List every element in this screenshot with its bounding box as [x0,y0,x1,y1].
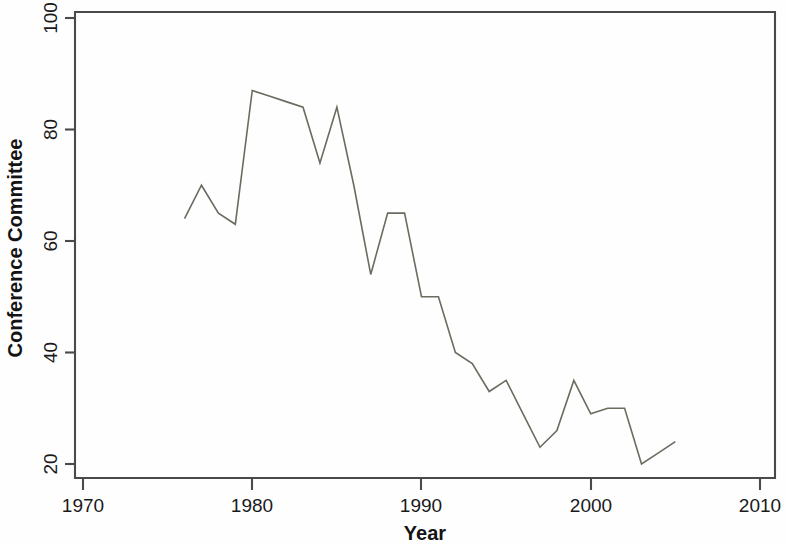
x-tick-label-1970: 1970 [62,495,104,516]
y-tick-label-100: 100 [40,2,61,34]
line-chart: 100 80 60 40 20 1970 1980 1990 2000 2010… [0,0,787,546]
chart-figure: 100 80 60 40 20 1970 1980 1990 2000 2010… [0,0,787,546]
y-tick-label-20: 20 [40,453,61,474]
y-axis-title: Conference Committee [4,139,26,358]
y-axis-ticks [65,18,75,464]
x-axis-title: Year [404,522,446,544]
x-axis-ticks [83,478,760,490]
x-tick-label-2010: 2010 [739,495,781,516]
y-tick-labels: 100 80 60 40 20 [40,2,61,474]
x-tick-label-1990: 1990 [400,495,442,516]
y-tick-label-40: 40 [40,342,61,363]
x-tick-labels: 1970 1980 1990 2000 2010 [62,495,781,516]
x-tick-label-1980: 1980 [231,495,273,516]
x-tick-label-2000: 2000 [570,495,612,516]
data-series-line [185,90,676,464]
y-tick-label-60: 60 [40,230,61,251]
y-tick-label-80: 80 [40,119,61,140]
plot-frame [75,12,775,478]
